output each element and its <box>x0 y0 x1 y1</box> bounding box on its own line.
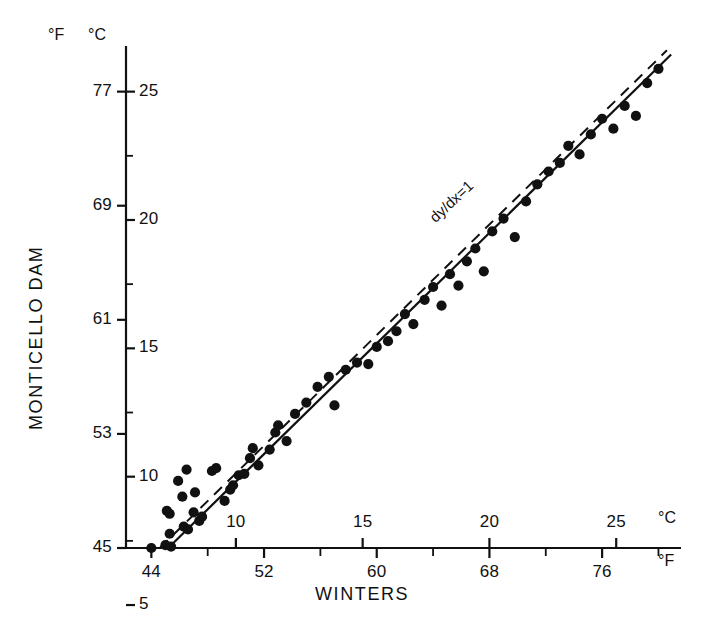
data-point <box>487 226 497 236</box>
data-point <box>265 444 275 454</box>
data-point <box>462 256 472 266</box>
y-axis-celsius-unit: °C <box>88 26 106 44</box>
data-point <box>301 397 311 407</box>
x-axis-title: WINTERS <box>315 584 409 605</box>
data-point <box>453 280 463 290</box>
data-point <box>273 420 283 430</box>
data-point <box>391 326 401 336</box>
data-point <box>420 295 430 305</box>
data-point <box>245 453 255 463</box>
data-point <box>400 309 410 319</box>
y-axis-title: MONTICELLO DAM <box>26 246 47 430</box>
data-point <box>574 149 584 159</box>
data-point <box>165 529 175 539</box>
data-point <box>543 166 553 176</box>
data-point <box>197 512 207 522</box>
data-point <box>363 359 373 369</box>
data-point <box>248 443 258 453</box>
data-point <box>211 463 221 473</box>
scatter-plot-figure: MONTICELLO DAM WINTERS °F °C °C °F dy/dx… <box>0 0 701 621</box>
x-tick-label-c-20: 20 <box>474 512 504 532</box>
data-point <box>642 78 652 88</box>
data-point <box>620 101 630 111</box>
data-point <box>372 342 382 352</box>
data-point <box>228 480 238 490</box>
data-point <box>181 464 191 474</box>
y-tick-label-f-45: 45 <box>66 537 112 557</box>
data-point <box>190 487 200 497</box>
data-point <box>586 129 596 139</box>
data-point <box>470 243 480 253</box>
data-point <box>631 111 641 121</box>
y-tick-label-c-20: 20 <box>139 209 158 229</box>
y-tick-label-c-10: 10 <box>139 466 158 486</box>
data-point <box>436 300 446 310</box>
data-point <box>653 64 663 74</box>
data-point <box>183 524 193 534</box>
y-tick-label-f-61: 61 <box>66 309 112 329</box>
data-point <box>428 282 438 292</box>
data-point <box>329 400 339 410</box>
y-tick-label-c-15: 15 <box>139 337 158 357</box>
x-tick-label-f-60: 60 <box>360 562 394 582</box>
data-point <box>383 336 393 346</box>
data-point <box>563 141 573 151</box>
x-tick-label-c-25: 25 <box>601 512 631 532</box>
data-point <box>532 179 542 189</box>
data-point <box>220 496 230 506</box>
data-point <box>341 365 351 375</box>
data-point <box>555 158 565 168</box>
x-axis-celsius-unit: °C <box>658 509 676 527</box>
data-point <box>498 213 508 223</box>
data-point <box>479 266 489 276</box>
data-point <box>146 543 156 553</box>
y-tick-label-c-25: 25 <box>139 81 158 101</box>
y-tick-label-f-53: 53 <box>66 423 112 443</box>
data-point <box>281 436 291 446</box>
y-axis-fahrenheit-unit: °F <box>48 26 64 44</box>
y-tick-label-f-77: 77 <box>66 81 112 101</box>
x-tick-label-f-44: 44 <box>134 562 168 582</box>
x-tick-label-c-10: 10 <box>221 512 251 532</box>
x-tick-label-c-15: 15 <box>348 512 378 532</box>
y-tick-label-c-5: 5 <box>139 594 149 614</box>
data-point <box>445 269 455 279</box>
data-point <box>166 541 176 551</box>
x-tick-label-f-68: 68 <box>472 562 506 582</box>
data-point <box>312 382 322 392</box>
data-point <box>521 196 531 206</box>
x-tick-label-f-52: 52 <box>247 562 281 582</box>
x-axis-fahrenheit-unit: °F <box>658 552 674 570</box>
data-point <box>173 476 183 486</box>
data-point <box>165 509 175 519</box>
data-point <box>324 372 334 382</box>
data-point <box>408 319 418 329</box>
data-point <box>608 124 618 134</box>
data-point <box>510 232 520 242</box>
y-tick-label-f-69: 69 <box>66 195 112 215</box>
data-point <box>239 469 249 479</box>
data-point <box>177 492 187 502</box>
data-point <box>290 409 300 419</box>
data-point <box>253 460 263 470</box>
data-point <box>597 114 607 124</box>
x-tick-label-f-76: 76 <box>585 562 619 582</box>
data-point <box>352 358 362 368</box>
